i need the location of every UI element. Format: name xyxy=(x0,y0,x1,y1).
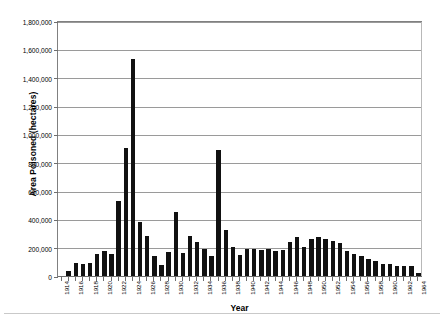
x-axis-tick-label: 1960 xyxy=(391,281,398,295)
x-axis-tick xyxy=(332,277,333,281)
bar xyxy=(252,249,256,277)
y-axis-tick-label: 200,000 xyxy=(28,245,52,252)
x-axis-tick xyxy=(132,277,133,281)
x-axis-tick-label: 1924 xyxy=(135,281,142,295)
x-axis-tick-label: 1922 xyxy=(120,281,127,295)
x-axis-tick-label: 1916 xyxy=(77,281,84,295)
y-axis-tick-label: 0 xyxy=(48,274,52,281)
bar xyxy=(174,212,178,277)
bar xyxy=(124,148,128,277)
x-axis-tick-label: 1952 xyxy=(334,281,341,295)
chart-figure: Area Poisoned (hectares) 0200,000400,000… xyxy=(0,0,444,323)
x-axis-tick-label: 1942 xyxy=(263,281,270,295)
x-axis-tick xyxy=(318,277,319,281)
x-axis-tick-label: 1958 xyxy=(377,281,384,295)
bar xyxy=(224,230,228,277)
x-axis-tick-label: 1918 xyxy=(92,281,99,295)
x-axis-title: Year xyxy=(57,303,422,313)
bar xyxy=(345,251,349,277)
x-axis-tick-label: 1920 xyxy=(106,281,113,295)
footer-divider xyxy=(4,313,440,314)
y-axis-tick xyxy=(54,163,58,164)
bar xyxy=(366,259,370,277)
x-axis-tick-label: 1934 xyxy=(206,281,213,295)
y-axis-tick-label: 1,800,000 xyxy=(23,19,52,26)
bar xyxy=(195,242,199,277)
bar xyxy=(373,261,377,277)
y-axis-tick-label: 800,000 xyxy=(28,160,52,167)
x-axis-tick-label: 1932 xyxy=(192,281,199,295)
bar xyxy=(109,254,113,277)
bar xyxy=(181,253,185,277)
bar xyxy=(359,256,363,277)
bar xyxy=(202,249,206,277)
y-axis-tick-label: 600,000 xyxy=(28,189,52,196)
x-axis-tick-label: 1928 xyxy=(163,281,170,295)
x-axis-tick xyxy=(61,277,62,281)
bar xyxy=(323,239,327,277)
bar xyxy=(245,249,249,277)
x-axis-tick xyxy=(303,277,304,281)
bar xyxy=(116,201,120,278)
x-axis-tick xyxy=(160,277,161,281)
y-axis-tick xyxy=(54,220,58,221)
bar xyxy=(216,150,220,278)
y-axis-tick-label: 1,400,000 xyxy=(23,75,52,82)
x-axis-tick-label: 1946 xyxy=(292,281,299,295)
bar xyxy=(188,236,192,277)
x-axis-tick-label: 1950 xyxy=(320,281,327,295)
bar xyxy=(302,247,306,277)
y-axis-tick-label: 400,000 xyxy=(28,217,52,224)
bar xyxy=(102,251,106,277)
y-axis-tick xyxy=(54,248,58,249)
bar xyxy=(352,254,356,277)
x-axis-tick xyxy=(75,277,76,281)
x-axis-tick xyxy=(260,277,261,281)
bar xyxy=(295,237,299,277)
x-axis-tick-label: 1940 xyxy=(249,281,256,295)
y-axis-tick-label: 1,200,000 xyxy=(23,104,52,111)
bar xyxy=(266,249,270,277)
x-axis-tick xyxy=(346,277,347,281)
x-axis-tick xyxy=(89,277,90,281)
x-axis-tick-label: 1926 xyxy=(149,281,156,295)
y-axis-tick-label: 1,600,000 xyxy=(23,47,52,54)
x-axis-tick-label: 1962 xyxy=(406,281,413,295)
bar xyxy=(238,255,242,277)
x-axis-tick-label: 1930 xyxy=(177,281,184,295)
x-axis-tick-label: 1936 xyxy=(220,281,227,295)
x-axis-tick xyxy=(246,277,247,281)
x-axis-tick xyxy=(189,277,190,281)
x-axis-tick-label: 1956 xyxy=(363,281,370,295)
bar xyxy=(316,237,320,277)
x-axis-tick xyxy=(103,277,104,281)
bar xyxy=(95,254,99,277)
bar xyxy=(145,236,149,277)
x-axis-tick xyxy=(118,277,119,281)
bar xyxy=(209,256,213,277)
x-axis-tick xyxy=(275,277,276,281)
y-axis-tick xyxy=(54,22,58,23)
y-axis-tick xyxy=(54,50,58,51)
bar xyxy=(138,222,142,277)
bar xyxy=(231,247,235,277)
bar xyxy=(166,252,170,277)
x-axis-tick xyxy=(203,277,204,281)
y-axis-tick xyxy=(54,107,58,108)
x-axis-tick-label: 1964 xyxy=(420,281,427,295)
x-axis-tick-label: 1944 xyxy=(277,281,284,295)
y-axis-tick xyxy=(54,78,58,79)
y-axis-tick-label: 1,000,000 xyxy=(23,132,52,139)
bar xyxy=(152,256,156,277)
bar xyxy=(131,59,135,277)
bar xyxy=(288,242,292,277)
plot-area: 0200,000400,000600,000800,0001,000,0001,… xyxy=(57,21,422,277)
x-axis-tick-label: 1938 xyxy=(234,281,241,295)
x-axis-tick xyxy=(146,277,147,281)
y-axis-tick xyxy=(54,192,58,193)
bar-series xyxy=(58,22,422,277)
y-axis-tick xyxy=(54,135,58,136)
bar xyxy=(273,251,277,277)
x-axis-tick xyxy=(360,277,361,281)
x-axis-tick xyxy=(232,277,233,281)
